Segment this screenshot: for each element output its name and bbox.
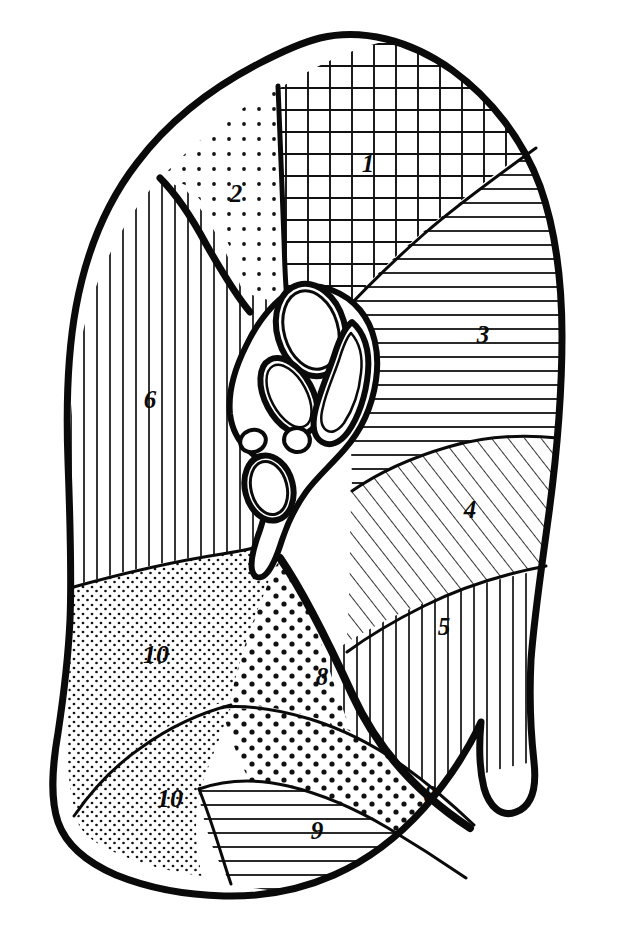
segment-label-9-text: 9 (311, 817, 324, 844)
segment-label-8a: 8 (316, 663, 329, 690)
segment-label-10b: 10 (157, 784, 183, 813)
segment-label-8a-text: 8 (316, 663, 329, 690)
segment-label-3-text: 3 (476, 321, 490, 348)
segment-label-3: 3 (476, 321, 490, 348)
segment-label-8b: 8 (424, 781, 437, 808)
segment-label-10a: 10 (143, 640, 169, 669)
segment-label-9: 9 (311, 817, 324, 844)
segment-label-2-text: 2 (229, 180, 243, 207)
segment-label-1: 1 (362, 150, 375, 177)
segment-label-5: 5 (438, 613, 451, 640)
segment-label-2: 2 (229, 180, 243, 207)
segment-label-6: 6 (144, 386, 157, 413)
segment-label-4-text: 4 (463, 496, 477, 523)
segment-label-10b-text: 10 (157, 784, 183, 813)
segment-label-6-text: 6 (144, 386, 157, 413)
lung-segment-diagram: 1 2 3 4 5 6 8 8 9 10 10 (0, 0, 641, 934)
segment-label-4: 4 (463, 496, 477, 523)
segment-label-10a-text: 10 (143, 640, 169, 669)
segment-label-1-text: 1 (362, 150, 375, 177)
segment-label-5-text: 5 (438, 613, 451, 640)
segment-label-8b-text: 8 (424, 781, 437, 808)
lung-diagram-svg: 1 2 3 4 5 6 8 8 9 10 10 (0, 0, 641, 934)
